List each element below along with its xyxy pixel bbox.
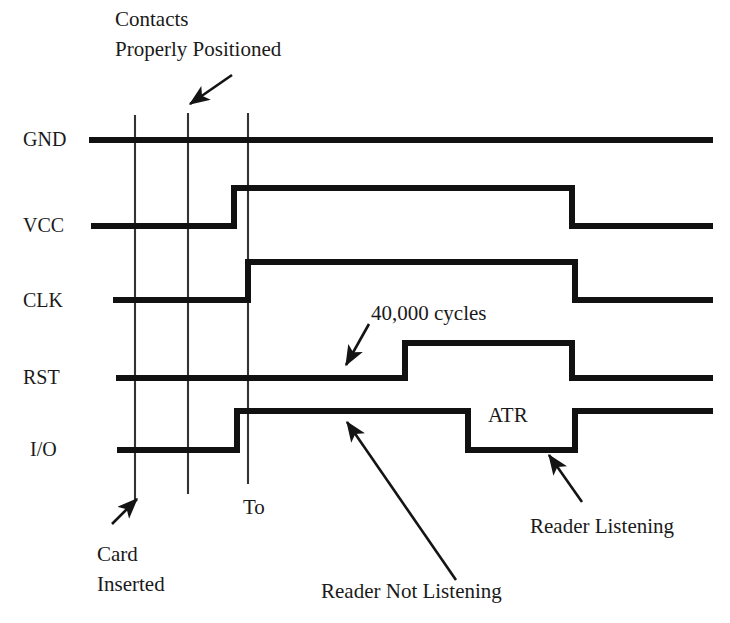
waveform-io [117,411,713,450]
annotation-contacts-line2: Properly Positioned [115,37,282,61]
waveform-rst [116,343,713,378]
signal-label-clk: CLK [23,289,64,311]
annotation-card-line2: Inserted [97,572,165,596]
waveform-vcc [91,188,713,226]
annotation-atr: ATR [488,403,528,427]
annotation-arrow-not-listening [347,422,456,580]
annotation-contacts-line1: Contacts [115,7,189,31]
signal-label-gnd: GND [23,128,66,150]
timing-diagram: GND VCC CLK RST I/O Contacts Properly Po… [0,0,730,623]
signal-label-rst: RST [23,366,60,388]
annotation-not-listening: Reader Not Listening [321,579,502,603]
annotation-card-line1: Card [97,542,138,566]
annotation-arrow-cycles [346,324,369,365]
signal-label-io: I/O [30,438,57,460]
timing-diagram-canvas: GND VCC CLK RST I/O Contacts Properly Po… [0,0,730,623]
annotation-t0: To [243,495,265,519]
signal-label-vcc: VCC [23,214,64,236]
annotation-cycles: 40,000 cycles [371,301,486,325]
annotation-arrow-listening [549,455,582,502]
annotation-arrow-card-inserted [112,499,137,524]
annotation-listening: Reader Listening [530,514,675,538]
annotation-arrow-contacts [190,75,232,104]
waveform-clk [113,262,713,300]
